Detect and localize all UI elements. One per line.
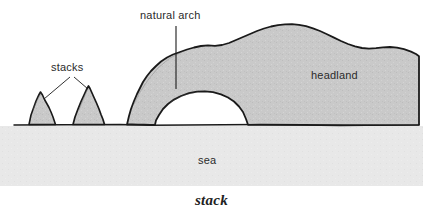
label-natural-arch: natural arch (140, 9, 201, 21)
headland-mass (127, 24, 419, 125)
coastal-landform-diagram (0, 0, 423, 219)
label-sea: sea (198, 154, 216, 166)
label-stacks: stacks (51, 61, 83, 73)
stack-left (29, 92, 56, 125)
stack-right (73, 86, 105, 125)
diagram-figure: stacks natural arch headland sea stack (0, 0, 423, 219)
figure-caption: stack (0, 192, 423, 209)
stacks-leader-lines (44, 77, 88, 99)
label-headland: headland (311, 69, 358, 81)
